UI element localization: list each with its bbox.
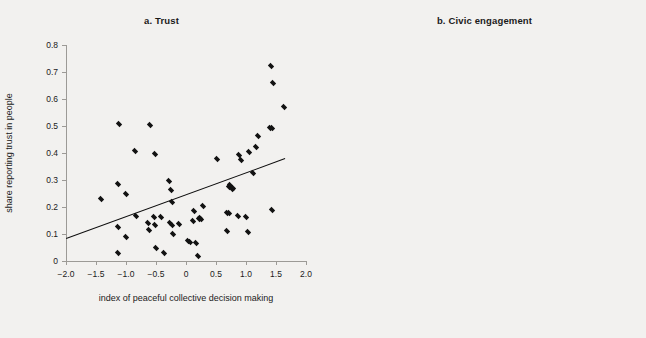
y-axis-tick-label: 0.4 bbox=[24, 148, 58, 158]
x-axis-tick bbox=[96, 261, 97, 265]
x-axis-tick-label: −1.5 bbox=[88, 269, 105, 279]
x-axis-tick bbox=[276, 261, 277, 265]
x-axis-tick bbox=[186, 261, 187, 265]
data-point bbox=[235, 213, 241, 219]
y-axis-tick bbox=[62, 234, 66, 235]
x-axis-tick-label: 1.5 bbox=[270, 269, 282, 279]
data-point bbox=[158, 214, 164, 220]
data-point bbox=[116, 121, 122, 127]
data-point bbox=[161, 249, 167, 255]
data-point bbox=[191, 208, 197, 214]
x-axis-tick-label: −0.5 bbox=[148, 269, 165, 279]
data-point bbox=[238, 157, 244, 163]
data-point bbox=[114, 181, 120, 187]
data-point bbox=[268, 63, 274, 69]
data-point bbox=[252, 143, 258, 149]
data-point bbox=[243, 214, 249, 220]
x-axis-tick-label: 1.0 bbox=[240, 269, 252, 279]
y-axis-tick bbox=[62, 45, 66, 46]
x-axis-title: index of peaceful collective decision ma… bbox=[99, 293, 274, 303]
data-point bbox=[123, 190, 129, 196]
x-axis-tick bbox=[216, 261, 217, 265]
data-point bbox=[123, 234, 129, 240]
panel-title-b: b. Civic engagement bbox=[323, 15, 646, 26]
x-axis-tick bbox=[246, 261, 247, 265]
data-point bbox=[153, 245, 159, 251]
y-axis-tick-label: 0.1 bbox=[24, 229, 58, 239]
x-axis-tick-label: −1.0 bbox=[118, 269, 135, 279]
data-point bbox=[169, 199, 175, 205]
y-axis-tick bbox=[62, 126, 66, 127]
data-point bbox=[170, 231, 176, 237]
y-axis-tick bbox=[62, 180, 66, 181]
data-point bbox=[132, 147, 138, 153]
data-point bbox=[281, 104, 287, 110]
data-point bbox=[270, 79, 276, 85]
x-axis-tick bbox=[66, 261, 67, 265]
data-point bbox=[168, 187, 174, 193]
x-axis-tick bbox=[156, 261, 157, 265]
data-point bbox=[168, 221, 174, 227]
data-point bbox=[145, 220, 151, 226]
data-point bbox=[132, 212, 138, 218]
data-point bbox=[214, 156, 220, 162]
x-axis-tick bbox=[306, 261, 307, 265]
x-axis-tick-label: 0.5 bbox=[210, 269, 222, 279]
data-point bbox=[150, 214, 156, 220]
data-point bbox=[152, 151, 158, 157]
y-axis-tick-label: 0.7 bbox=[24, 67, 58, 77]
plot-area-trust: 00.10.20.30.40.50.60.70.8−2.0−1.5−1.0−0.… bbox=[66, 45, 306, 261]
x-axis-tick bbox=[126, 261, 127, 265]
data-point bbox=[224, 228, 230, 234]
y-axis-tick-label: 0.3 bbox=[24, 175, 58, 185]
data-point bbox=[146, 227, 152, 233]
y-axis-tick bbox=[62, 99, 66, 100]
y-axis-tick-label: 0.6 bbox=[24, 94, 58, 104]
y-axis-tick-label: 0.2 bbox=[24, 202, 58, 212]
data-point bbox=[176, 221, 182, 227]
data-point bbox=[147, 122, 153, 128]
data-point bbox=[115, 224, 121, 230]
chart-panel-civic-engagement: b. Civic engagement 00.10.20.30.40.50.60… bbox=[323, 0, 646, 338]
data-point bbox=[255, 133, 261, 139]
data-point bbox=[269, 207, 275, 213]
y-axis-tick-label: 0.5 bbox=[24, 121, 58, 131]
data-point bbox=[200, 203, 206, 209]
data-point bbox=[166, 178, 172, 184]
data-point bbox=[193, 240, 199, 246]
y-axis-tick-label: 0.8 bbox=[24, 40, 58, 50]
chart-panel-trust: a. Trust 00.10.20.30.40.50.60.70.8−2.0−1… bbox=[0, 0, 323, 338]
data-point bbox=[246, 149, 252, 155]
panel-title-a: a. Trust bbox=[0, 15, 323, 26]
data-point bbox=[195, 253, 201, 259]
x-axis-tick-label: 0 bbox=[184, 269, 189, 279]
data-point bbox=[245, 229, 251, 235]
y-axis-line bbox=[66, 45, 67, 261]
data-point bbox=[114, 249, 120, 255]
y-axis-tick-label: 0 bbox=[24, 256, 58, 266]
x-axis-tick-label: 2.0 bbox=[300, 269, 312, 279]
y-axis-title: share reporting trust in people bbox=[4, 93, 14, 213]
y-axis-tick bbox=[62, 153, 66, 154]
y-axis-tick bbox=[62, 72, 66, 73]
data-point bbox=[250, 170, 256, 176]
x-axis-tick-label: −2.0 bbox=[58, 269, 75, 279]
figure-container: a. Trust 00.10.20.30.40.50.60.70.8−2.0−1… bbox=[0, 0, 646, 338]
y-axis-tick bbox=[62, 207, 66, 208]
data-point bbox=[98, 196, 104, 202]
data-point bbox=[152, 221, 158, 227]
